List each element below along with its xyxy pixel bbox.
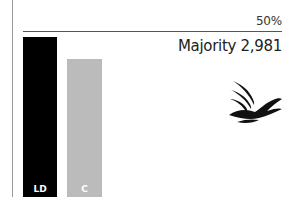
reference-line-label: 50% xyxy=(256,14,282,28)
vertical-axis-line xyxy=(12,0,13,197)
bar-c: C xyxy=(67,59,102,197)
lib-dem-bird-icon xyxy=(225,78,283,128)
bar-label-c: C xyxy=(67,184,102,194)
bar-label-ld: LD xyxy=(23,184,57,194)
majority-label: Majority 2,981 xyxy=(178,37,282,55)
bar-ld: LD xyxy=(23,37,57,197)
fifty-percent-reference-line xyxy=(23,31,282,32)
